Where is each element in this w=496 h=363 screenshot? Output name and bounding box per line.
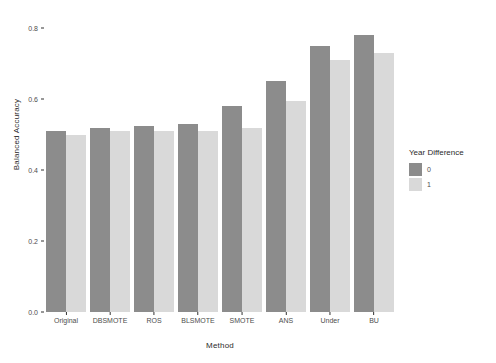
x-axis-tick-label: Original [54,317,78,324]
x-axis-tick-mark [329,312,330,315]
bar-group [222,14,262,312]
bar [66,135,86,312]
legend-entries: 01 [409,163,495,191]
bar [154,131,174,312]
bar [134,126,154,312]
bar-group [178,14,218,312]
x-axis-tick: BLSMOTE [181,312,214,324]
y-axis-tick-mark [41,99,44,100]
plot-panel: 0.00.20.40.60.8 OriginalDBSMOTEROSBLSMOT… [44,14,396,312]
x-axis-tick: Original [54,312,78,324]
x-axis-tick-mark [110,312,111,315]
bar [198,131,218,312]
bar [90,128,110,312]
y-axis-tick-label: 0.6 [28,96,41,103]
bar [310,46,330,312]
x-axis-tick-label: DBSMOTE [93,317,128,324]
x-axis-tick: ANS [279,312,293,324]
y-axis-tick-mark [41,170,44,171]
bar [46,131,66,312]
x-axis-tick: Under [320,312,339,324]
bar [222,106,242,312]
y-axis-tick: 0.8 [28,25,44,32]
y-axis-title: Balanced Accuracy [12,75,21,195]
legend-title: Year Difference [409,148,495,157]
y-axis-tick: 0.6 [28,96,44,103]
y-axis-tick-label: 0.0 [28,309,41,316]
bar-group [310,14,350,312]
x-axis-tick-mark [66,312,67,315]
legend-swatch [409,163,422,176]
x-axis-tick-label: SMOTE [230,317,255,324]
bar [242,128,262,312]
legend-entry-label: 1 [427,181,431,188]
x-axis-title: Method [44,341,396,350]
y-axis-tick-mark [41,312,44,313]
x-axis-tick-mark [241,312,242,315]
legend-entry: 1 [409,178,495,191]
legend: Year Difference 01 [409,148,495,193]
y-axis-tick-mark [41,28,44,29]
x-axis-tick-mark [153,312,154,315]
bar [354,35,374,312]
bar [266,81,286,312]
x-axis-tick: ROS [146,312,161,324]
bar [374,53,394,312]
y-axis-tick-label: 0.8 [28,25,41,32]
x-axis-tick-label: ANS [279,317,293,324]
x-axis-tick: BU [369,312,379,324]
x-axis-tick-label: BU [369,317,379,324]
x-axis-tick: DBSMOTE [93,312,128,324]
x-axis-tick: SMOTE [230,312,255,324]
y-axis-tick-label: 0.2 [28,238,41,245]
bar-group [266,14,306,312]
bar-group [46,14,86,312]
bar-group [90,14,130,312]
x-axis-tick-mark [197,312,198,315]
bar-chart-figure: Balanced Accuracy 0.00.20.40.60.8 Origin… [0,0,496,363]
x-axis-tick-mark [286,312,287,315]
bars-layer [44,14,396,312]
legend-entry: 0 [409,163,495,176]
legend-entry-label: 0 [427,166,431,173]
bar [330,60,350,312]
bar [110,131,130,312]
bar [286,101,306,312]
y-axis-tick: 0.0 [28,309,44,316]
x-axis-tick-label: Under [320,317,339,324]
y-axis-tick-mark [41,241,44,242]
y-axis-tick-label: 0.4 [28,167,41,174]
bar-group [354,14,394,312]
y-axis-tick: 0.2 [28,238,44,245]
y-axis-tick: 0.4 [28,167,44,174]
x-axis-tick-mark [373,312,374,315]
x-axis-tick-label: BLSMOTE [181,317,214,324]
bar-group [134,14,174,312]
bar [178,124,198,312]
legend-swatch [409,178,422,191]
x-axis-tick-label: ROS [146,317,161,324]
